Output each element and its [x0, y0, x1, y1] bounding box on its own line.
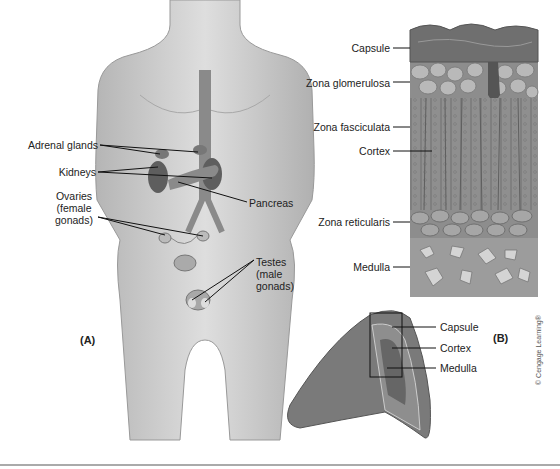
label-adrenal-glands: Adrenal glands [8, 139, 98, 151]
label-zona-fasciculata: Zona fasciculata [260, 121, 390, 133]
adrenal-section [410, 24, 538, 297]
label-testes-line3: gonads) [256, 280, 294, 292]
label-cortex-section: Cortex [280, 145, 390, 157]
label-pancreas: Pancreas [249, 197, 293, 209]
label-ovaries-line2: (female [52, 202, 96, 214]
panel-label-b: (B) [493, 332, 508, 344]
label-medulla-section: Medulla [280, 261, 390, 273]
label-capsule-gland: Capsule [440, 321, 479, 333]
label-zona-reticularis: Zona reticularis [260, 216, 390, 228]
adrenal-gland [288, 311, 436, 438]
label-capsule-section: Capsule [280, 42, 390, 54]
bottom-rule [0, 464, 560, 466]
label-zona-glomerulosa: Zona glomerulosa [260, 77, 390, 89]
label-ovaries-line1: Ovaries [52, 190, 96, 202]
label-kidneys: Kidneys [8, 166, 96, 178]
label-cortex-gland: Cortex [440, 342, 471, 354]
label-medulla-gland: Medulla [440, 362, 477, 374]
label-ovaries: Ovaries (female gonads) [52, 190, 96, 226]
illustration [0, 0, 560, 469]
copyright-credit: © Cengage Learning® [535, 315, 542, 385]
label-ovaries-line3: gonads) [52, 214, 96, 226]
panel-label-a: (A) [80, 334, 95, 346]
